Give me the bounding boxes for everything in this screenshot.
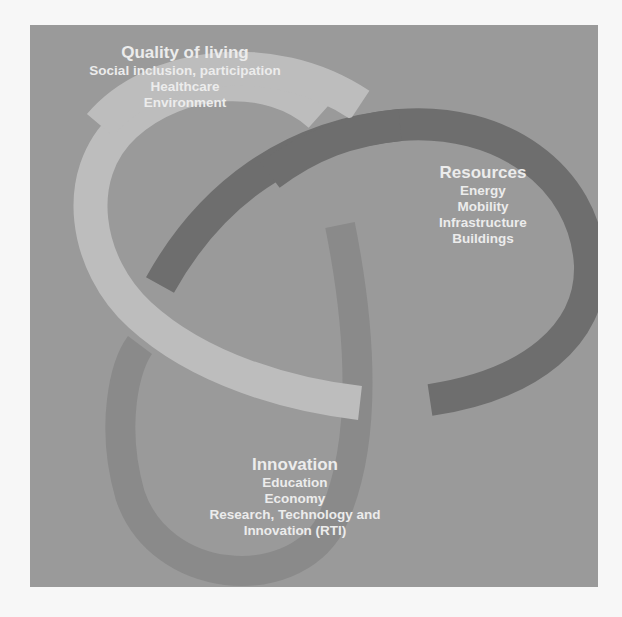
section-item: Education xyxy=(180,475,410,491)
section-item: Environment xyxy=(70,95,300,111)
section-resources: Resources Energy Mobility Infrastructure… xyxy=(408,163,558,247)
section-item: Social inclusion, participation xyxy=(70,63,300,79)
section-title: Innovation xyxy=(180,455,410,475)
section-item: Research, Technology and xyxy=(180,507,410,523)
diagram-panel: Quality of living Social inclusion, part… xyxy=(30,25,598,587)
section-item: Healthcare xyxy=(70,79,300,95)
section-title: Resources xyxy=(408,163,558,183)
section-item: Innovation (RTI) xyxy=(180,523,410,539)
section-innovation: Innovation Education Economy Research, T… xyxy=(180,455,410,539)
resources-ring-crossing xyxy=(270,125,400,175)
section-quality-of-living: Quality of living Social inclusion, part… xyxy=(70,43,300,111)
section-item: Economy xyxy=(180,491,410,507)
section-item: Buildings xyxy=(408,231,558,247)
section-title: Quality of living xyxy=(70,43,300,63)
section-item: Energy xyxy=(408,183,558,199)
section-item: Mobility xyxy=(408,199,558,215)
section-item: Infrastructure xyxy=(408,215,558,231)
